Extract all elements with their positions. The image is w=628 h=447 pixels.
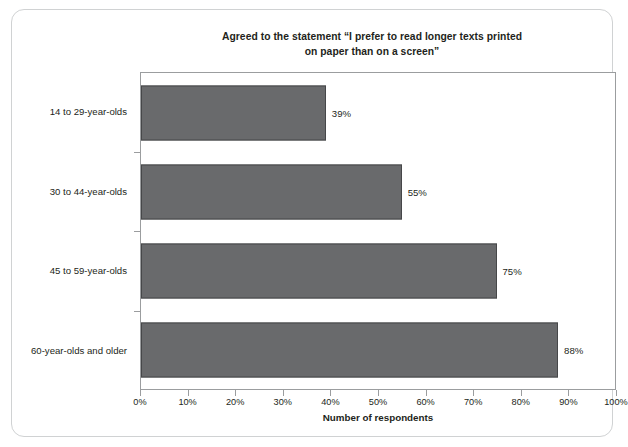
bar-2 xyxy=(141,243,497,298)
bar-value-label-2: 75% xyxy=(497,265,522,276)
x-axis-tick-label-9: 90% xyxy=(559,397,577,407)
chart-title: Agreed to the statement “I prefer to rea… xyxy=(132,30,612,59)
y-axis-category-labels: 14 to 29-year-olds 30 to 44-year-olds 45… xyxy=(12,72,136,390)
y-axis-label-0: 14 to 29-year-olds xyxy=(12,72,136,152)
bar-value-label-3: 88% xyxy=(558,344,583,355)
y-axis-label-1: 30 to 44-year-olds xyxy=(12,152,136,232)
x-axis-tick-3 xyxy=(283,390,284,396)
bar-row-3: 88% xyxy=(141,310,615,389)
chart-figure-frame: Agreed to the statement “I prefer to rea… xyxy=(11,9,613,437)
bar-1 xyxy=(141,164,402,219)
x-axis-tick-label-5: 50% xyxy=(369,397,387,407)
x-axis-tick-label-0: 0% xyxy=(133,397,146,407)
bar-0 xyxy=(141,85,326,140)
plot-area: 39% 55% 75% 88% xyxy=(140,72,616,390)
x-axis-tick-10 xyxy=(616,390,617,396)
bar-value-label-0: 39% xyxy=(326,107,351,118)
y-axis-label-3: 60-year-olds and older xyxy=(12,311,136,391)
bar-3 xyxy=(141,322,558,377)
x-axis-tick-4 xyxy=(330,390,331,396)
x-axis-tick-label-4: 40% xyxy=(321,397,339,407)
x-axis-tick-8 xyxy=(521,390,522,396)
bar-row-0: 39% xyxy=(141,73,615,152)
x-axis-tick-7 xyxy=(473,390,474,396)
x-axis-tick-1 xyxy=(188,390,189,396)
x-axis-tick-2 xyxy=(235,390,236,396)
bar-series: 39% 55% 75% 88% xyxy=(141,73,615,389)
x-axis-tick-label-8: 80% xyxy=(512,397,530,407)
x-axis-tick-0 xyxy=(140,390,141,396)
x-axis-tick-label-6: 60% xyxy=(416,397,434,407)
bar-row-1: 55% xyxy=(141,152,615,231)
x-axis-tick-label-3: 30% xyxy=(274,397,292,407)
x-axis-tick-label-1: 10% xyxy=(178,397,196,407)
x-axis-title: Number of respondents xyxy=(140,412,616,423)
x-axis-tick-label-10: 100% xyxy=(604,397,628,407)
x-axis-tick-6 xyxy=(426,390,427,396)
bar-value-label-1: 55% xyxy=(402,186,427,197)
chart-title-line-1: Agreed to the statement “I prefer to rea… xyxy=(132,30,612,45)
x-axis-tick-9 xyxy=(568,390,569,396)
x-axis-tick-label-7: 70% xyxy=(464,397,482,407)
y-axis-label-2: 45 to 59-year-olds xyxy=(12,231,136,311)
chart-title-line-2: on paper than on a screen” xyxy=(132,45,612,60)
bar-row-2: 75% xyxy=(141,231,615,310)
x-axis-tick-label-2: 20% xyxy=(226,397,244,407)
x-axis-tick-5 xyxy=(378,390,379,396)
